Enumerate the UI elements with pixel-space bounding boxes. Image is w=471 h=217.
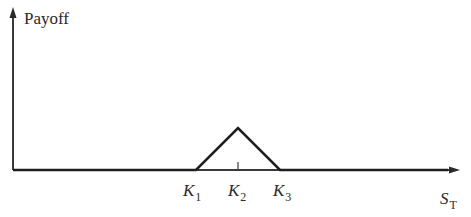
x-axis-arrow-icon <box>449 167 460 174</box>
tick-label-k1: K1 <box>183 182 201 199</box>
y-axis-arrow-icon <box>10 7 17 18</box>
y-axis <box>10 7 17 170</box>
tick-label-k2: K2 <box>228 182 246 199</box>
tick-label-k3: K3 <box>273 182 291 199</box>
payoff-line <box>13 128 448 170</box>
y-axis-label: Payoff <box>24 10 69 27</box>
x-axis-label: ST <box>440 190 457 207</box>
